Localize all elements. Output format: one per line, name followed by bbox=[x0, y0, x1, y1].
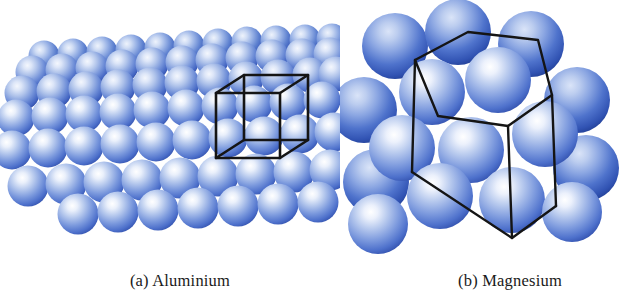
panel-aluminium bbox=[0, 0, 340, 262]
crystal-structure-figure: (a) Aluminium (b) Magnesium bbox=[0, 0, 635, 304]
caption-aluminium: (a) Aluminium bbox=[60, 268, 300, 298]
caption-magnesium: (b) Magnesium bbox=[395, 268, 625, 298]
panel-magnesium bbox=[340, 0, 635, 262]
aluminium-sphere-cluster-svg bbox=[0, 0, 340, 262]
magnesium-sphere-cluster-svg bbox=[340, 0, 635, 262]
